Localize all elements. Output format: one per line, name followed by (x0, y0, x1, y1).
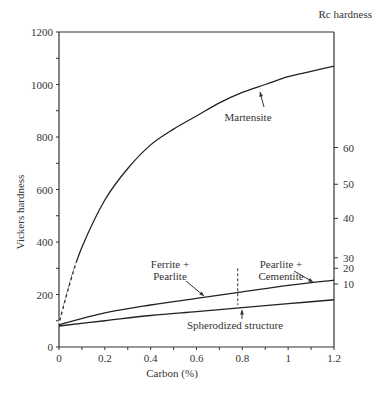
ferrite-pearlite-label-2: Pearlite (153, 270, 187, 282)
spherodized-arrow-head (240, 310, 244, 315)
ferrite-pearlite-label-1: Ferrite + (151, 258, 189, 270)
ferrite-pearlite-curve (59, 280, 334, 325)
y2-tick-label: 40 (343, 212, 355, 224)
y-tick-label: 0 (48, 341, 54, 353)
y2-tick-label: 60 (343, 142, 355, 154)
y2-tick-label: 20 (343, 262, 355, 274)
y2-tick-label: 50 (343, 178, 355, 190)
pearlite-cementite-label-2: Cementite (258, 270, 303, 282)
hardness-chart: 02004006008001000120000.20.40.60.811.210… (0, 0, 374, 398)
pearlite-cementite-label-1: Pearlite + (260, 258, 303, 270)
y-tick-label: 800 (37, 131, 54, 143)
y2-tick-label: 30 (343, 252, 355, 264)
x-tick-label: 0 (56, 352, 62, 364)
martensite-label: Martensite (224, 111, 271, 123)
x-tick-label: 0.2 (98, 352, 112, 364)
spherodized-label: Spherodized structure (187, 319, 283, 331)
y-tick-label: 1200 (31, 26, 54, 38)
y2-axis-label: Rc hardness (319, 8, 372, 20)
x-tick-label: 1 (285, 352, 291, 364)
y-tick-label: 400 (37, 236, 54, 248)
x-tick-label: 0.4 (144, 352, 158, 364)
x-tick-label: 0.8 (235, 352, 249, 364)
x-axis-label: Carbon (%) (146, 367, 198, 380)
y-tick-label: 200 (37, 289, 54, 301)
y2-tick-label: 10 (343, 278, 355, 290)
y-tick-label: 600 (37, 184, 54, 196)
y-tick-label: 1000 (31, 79, 54, 91)
y-axis-label: Vickers hardness (14, 175, 26, 250)
x-tick-label: 0.6 (190, 352, 204, 364)
x-tick-label: 1.2 (327, 352, 341, 364)
